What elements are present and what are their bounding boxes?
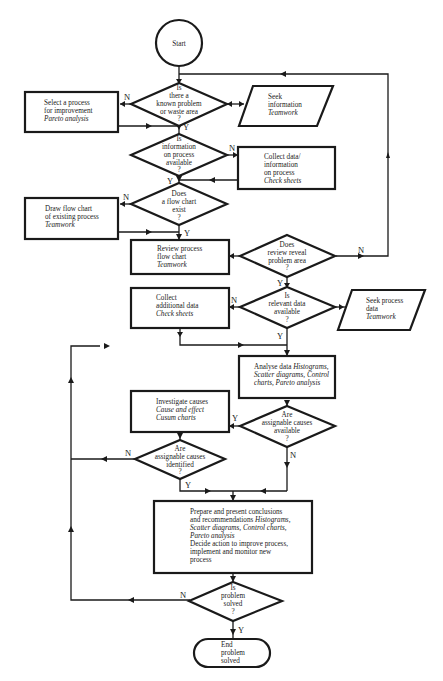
process-text: and recommendations Histograms, <box>190 516 291 524</box>
tool-text: Check sheets <box>264 177 302 185</box>
process-text: on process <box>264 169 295 177</box>
process-text: implement and monitor new <box>190 548 272 556</box>
end-text: End <box>221 641 233 649</box>
end-text: solved <box>221 657 240 665</box>
tool-text: Teamwork <box>366 313 396 321</box>
decision-text: ? <box>177 214 180 222</box>
process-text: information <box>264 161 298 169</box>
process-collect-data: Collect data/ information on process Che… <box>238 147 335 189</box>
tool-text: Pareto analysis <box>189 532 235 540</box>
input-text: Seek <box>268 93 282 101</box>
decision-text: ? <box>285 316 288 324</box>
input-text: data <box>366 305 379 313</box>
process-text: of existing process <box>45 213 99 221</box>
tool-text: Cusum charts <box>156 414 196 422</box>
process-text: Investigate causes <box>156 398 208 406</box>
decision-text: Are <box>282 411 293 419</box>
process-analyse-data: Analyse data Histograms, Scatter diagram… <box>239 356 335 398</box>
decision-text: Is <box>176 84 181 92</box>
quality-improvement-flowchart: Start Is there a known problem or waste … <box>0 0 443 681</box>
end-text: problem <box>221 649 245 657</box>
decision-assignable-causes-identified: Are assignable causes identified ? N Y <box>125 440 225 490</box>
process-draw-flowchart: Draw flow chart of existing process Team… <box>25 198 118 239</box>
start-terminal: Start <box>156 20 202 66</box>
decision-text: assignable causes <box>155 453 206 461</box>
decision-text: ? <box>285 264 288 272</box>
yes-label: Y <box>238 625 244 635</box>
no-label: N <box>124 92 130 102</box>
input-seek-information: Seek information Teamwork <box>239 86 333 126</box>
decision-relevant-data: Is relevant data available ? N Y <box>231 287 335 341</box>
input-text: information <box>268 101 302 109</box>
decision-text: there a <box>169 92 189 100</box>
yes-label: Y <box>277 278 283 288</box>
process-text: Analyse data Histograms, <box>254 363 329 371</box>
decision-text: ? <box>177 166 180 174</box>
decision-text: available <box>274 427 300 435</box>
decision-problem-solved: Is problem solved ? N Y <box>180 582 282 635</box>
input-seek-process-data: Seek process data Teamwork <box>338 290 425 330</box>
decision-flowchart-exists: Does a flow chart exist ? N Y <box>123 183 227 238</box>
decision-review-reveals-problem: Does review reveal problem area ? N Y <box>240 235 364 288</box>
tool-text: Scatter diagrams, Control charts, <box>190 524 287 532</box>
no-label: N <box>123 192 129 202</box>
tool-text: Pareto analysis <box>43 115 89 123</box>
decision-assignable-causes-available: Are assignable causes available ? Y N <box>232 406 335 460</box>
tool-text: Scatter diagrams, Control <box>254 371 329 379</box>
decision-text: information <box>162 143 196 151</box>
tool-text: Check sheets <box>156 310 194 318</box>
decision-text: ? <box>178 468 181 476</box>
decision-text: available <box>274 308 300 316</box>
decision-text: a flow chart <box>162 198 196 206</box>
process-text: additional data <box>156 302 199 310</box>
decision-text: known problem <box>156 100 202 108</box>
no-label: N <box>231 295 237 305</box>
process-text: Prepare and present conclusions <box>190 508 283 516</box>
yes-label: Y <box>185 480 191 490</box>
process-text: process <box>190 556 212 564</box>
decision-text: relevant data <box>269 300 307 308</box>
process-text: for improvement <box>44 107 93 115</box>
start-label: Start <box>172 40 186 48</box>
process-text: flow chart <box>157 253 186 261</box>
process-text: Review process <box>157 245 203 253</box>
yes-label: Y <box>167 176 173 186</box>
tool-text: Cause and effect <box>156 406 205 414</box>
yes-label: Y <box>232 413 238 423</box>
no-label: N <box>180 590 186 600</box>
yes-label: Y <box>184 228 190 238</box>
tool-text: Teamwork <box>157 261 187 269</box>
decision-text: ? <box>285 435 288 443</box>
tool-text: charts, Pareto analysis <box>254 379 320 387</box>
decision-text: ? <box>177 115 180 123</box>
decision-text: Is <box>230 584 235 592</box>
no-label: N <box>125 448 131 458</box>
process-investigate-causes: Investigate causes Cause and effect Cusu… <box>131 391 229 432</box>
decision-text: Is <box>284 292 289 300</box>
decision-text: Does <box>172 190 187 198</box>
process-text: Decide action to improve process, <box>190 540 288 548</box>
process-text: Collect data/ <box>264 153 301 161</box>
end-terminal: End problem solved <box>194 639 270 667</box>
decision-text: Are <box>175 445 186 453</box>
decision-text: problem <box>221 592 245 600</box>
tool-text: Teamwork <box>268 109 298 117</box>
process-collect-additional-data: Collect additional data Check sheets <box>131 288 229 328</box>
no-label: N <box>229 143 235 153</box>
no-label: N <box>290 450 296 460</box>
decision-information-available: Is information on process available ? N … <box>131 134 235 186</box>
process-text: Collect <box>156 294 177 302</box>
process-prepare-conclusions: Prepare and present conclusions and reco… <box>154 501 312 573</box>
process-select-process: Select a process for improvement Pareto … <box>25 92 118 132</box>
decision-text: solved <box>224 600 243 608</box>
no-label: N <box>358 245 364 255</box>
process-text: Select a process <box>44 99 90 107</box>
decision-text: ? <box>231 608 234 616</box>
tool-text: Teamwork <box>45 221 75 229</box>
yes-label: Y <box>183 122 189 132</box>
process-text: Draw flow chart <box>45 205 92 213</box>
decision-known-problem: Is there a known problem or waste area ?… <box>124 83 227 132</box>
decision-text: Is <box>176 135 181 143</box>
yes-label: Y <box>277 331 283 341</box>
decision-text: assignable causes <box>262 419 313 427</box>
